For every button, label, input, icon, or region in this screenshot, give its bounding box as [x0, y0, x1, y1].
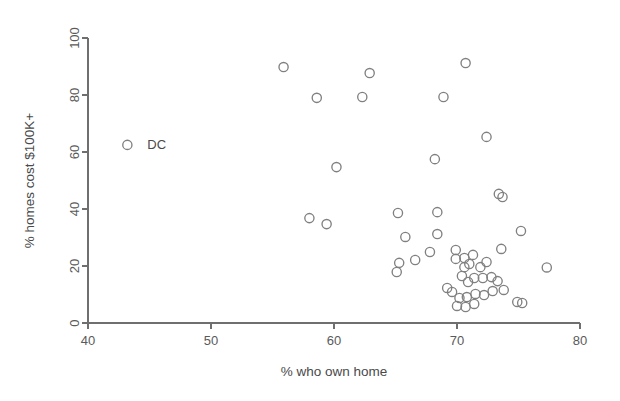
x-tick-label: 60 [327, 333, 341, 348]
data-point-marker [461, 58, 470, 67]
data-point-marker [471, 289, 480, 298]
data-point-marker [425, 247, 434, 256]
data-point-marker [392, 267, 401, 276]
data-point-marker [499, 285, 508, 294]
data-points [123, 58, 552, 311]
data-point-marker [460, 253, 469, 262]
data-point-marker [482, 132, 491, 141]
data-point-marker [482, 257, 491, 266]
data-point-marker [332, 163, 341, 172]
data-point-marker [468, 250, 477, 259]
data-point-marker [470, 299, 479, 308]
data-point-marker [411, 255, 420, 264]
data-point-marker [312, 93, 321, 102]
data-point-marker [433, 229, 442, 238]
plot-canvas: 4050607080020406080100 DC % who own home… [0, 0, 620, 401]
data-point-marker [305, 214, 314, 223]
x-tick-label: 40 [81, 333, 95, 348]
y-tick-label: 80 [67, 88, 82, 102]
data-point-marker [542, 263, 551, 272]
y-tick-label: 40 [67, 202, 82, 216]
data-point-marker [452, 301, 461, 310]
data-point-marker [476, 263, 485, 272]
data-point-marker [488, 286, 497, 295]
data-point-marker [395, 258, 404, 267]
data-point-marker [451, 245, 460, 254]
data-point-marker [439, 92, 448, 101]
x-tick-label: 50 [204, 333, 218, 348]
data-point-marker [479, 290, 488, 299]
y-tick-label: 20 [67, 259, 82, 273]
y-axis-title: % homes cost $100K+ [22, 113, 37, 249]
data-point-marker [430, 155, 439, 164]
data-point-marker [123, 140, 132, 149]
x-axis-title: % who own home [281, 364, 388, 379]
data-point-marker [322, 220, 331, 229]
data-point-marker [433, 208, 442, 217]
axis-ticks: 4050607080020406080100 [67, 27, 588, 348]
scatter-plot-figure: 4050607080020406080100 DC % who own home… [0, 0, 620, 401]
data-point-marker [365, 68, 374, 77]
y-tick-label: 60 [67, 145, 82, 159]
data-point-marker [279, 62, 288, 71]
data-point-marker [401, 232, 410, 241]
axes [88, 38, 580, 323]
annotation-dc: DC [147, 137, 166, 152]
data-point-marker [461, 302, 470, 311]
y-tick-label: 100 [67, 27, 82, 49]
y-tick-label: 0 [67, 319, 82, 326]
x-tick-label: 70 [450, 333, 464, 348]
data-point-marker [393, 208, 402, 217]
data-point-marker [478, 273, 487, 282]
data-point-marker [497, 244, 506, 253]
data-point-marker [358, 92, 367, 101]
x-tick-label: 80 [573, 333, 587, 348]
data-point-marker [516, 226, 525, 235]
data-point-marker [451, 254, 460, 263]
point-annotations: DC [147, 137, 166, 152]
